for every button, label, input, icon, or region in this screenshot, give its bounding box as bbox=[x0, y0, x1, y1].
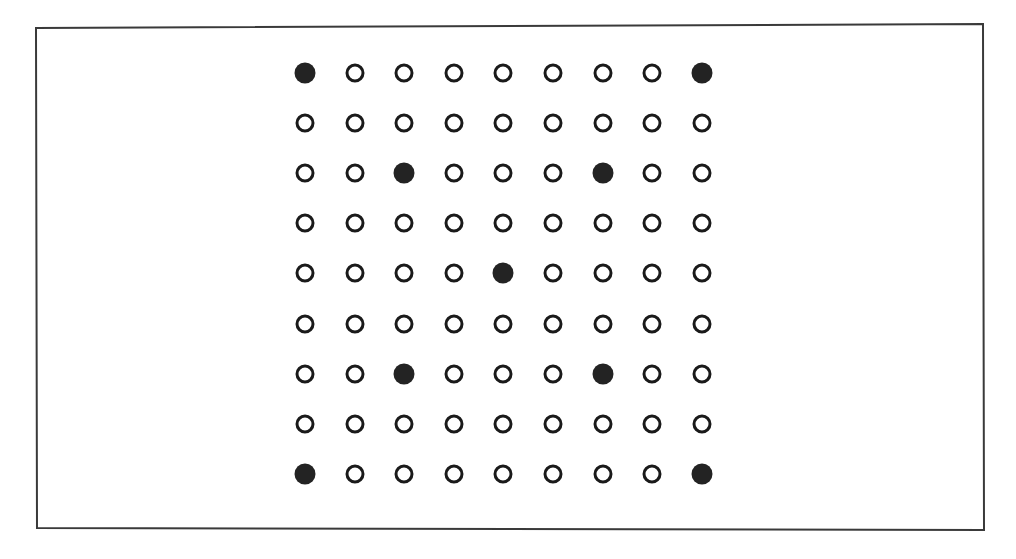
dot-hollow bbox=[444, 264, 463, 283]
dot-hollow bbox=[643, 214, 662, 233]
dot-hollow bbox=[643, 364, 662, 383]
dot-filled bbox=[493, 263, 514, 284]
dot-hollow bbox=[296, 114, 315, 133]
dot-hollow bbox=[296, 214, 315, 233]
dot-hollow bbox=[643, 314, 662, 333]
dot-hollow bbox=[494, 214, 513, 233]
dot-hollow bbox=[544, 64, 563, 83]
dot-hollow bbox=[593, 464, 612, 483]
dot-hollow bbox=[544, 414, 563, 433]
dot-hollow bbox=[494, 164, 513, 183]
dot-hollow bbox=[494, 364, 513, 383]
dot-hollow bbox=[692, 314, 711, 333]
dot-hollow bbox=[643, 264, 662, 283]
dot-hollow bbox=[692, 114, 711, 133]
dot-hollow bbox=[544, 164, 563, 183]
dot-hollow bbox=[345, 264, 364, 283]
dot-hollow bbox=[643, 114, 662, 133]
dot-hollow bbox=[494, 414, 513, 433]
dot-hollow bbox=[593, 214, 612, 233]
dot-hollow bbox=[692, 414, 711, 433]
dot-hollow bbox=[544, 214, 563, 233]
dot-hollow bbox=[345, 364, 364, 383]
dot-filled bbox=[295, 463, 316, 484]
dot-hollow bbox=[444, 214, 463, 233]
dot-filled bbox=[394, 163, 415, 184]
dot-hollow bbox=[692, 264, 711, 283]
dot-hollow bbox=[444, 164, 463, 183]
dot-filled bbox=[592, 363, 613, 384]
dot-filled bbox=[295, 63, 316, 84]
dot-hollow bbox=[395, 464, 414, 483]
dot-hollow bbox=[345, 414, 364, 433]
dot-hollow bbox=[494, 314, 513, 333]
dot-hollow bbox=[395, 264, 414, 283]
dot-hollow bbox=[395, 64, 414, 83]
dot-hollow bbox=[494, 464, 513, 483]
dot-filled bbox=[691, 63, 712, 84]
dot-hollow bbox=[444, 114, 463, 133]
dot-hollow bbox=[296, 414, 315, 433]
dot-hollow bbox=[643, 414, 662, 433]
dot-hollow bbox=[544, 264, 563, 283]
dot-hollow bbox=[395, 114, 414, 133]
dot-hollow bbox=[494, 64, 513, 83]
dot-hollow bbox=[593, 264, 612, 283]
dot-hollow bbox=[643, 64, 662, 83]
dot-hollow bbox=[296, 164, 315, 183]
dot-hollow bbox=[345, 214, 364, 233]
dot-grid bbox=[0, 0, 1016, 559]
dot-hollow bbox=[692, 364, 711, 383]
dot-hollow bbox=[296, 364, 315, 383]
dot-hollow bbox=[544, 464, 563, 483]
dot-hollow bbox=[593, 114, 612, 133]
dot-hollow bbox=[643, 164, 662, 183]
dot-hollow bbox=[296, 314, 315, 333]
dot-hollow bbox=[692, 164, 711, 183]
dot-hollow bbox=[395, 314, 414, 333]
dot-hollow bbox=[395, 414, 414, 433]
dot-hollow bbox=[593, 64, 612, 83]
dot-hollow bbox=[444, 464, 463, 483]
dot-hollow bbox=[444, 414, 463, 433]
dot-hollow bbox=[444, 64, 463, 83]
dot-hollow bbox=[643, 464, 662, 483]
dot-hollow bbox=[345, 314, 364, 333]
dot-hollow bbox=[593, 414, 612, 433]
dot-hollow bbox=[444, 314, 463, 333]
dot-hollow bbox=[345, 64, 364, 83]
dot-hollow bbox=[345, 114, 364, 133]
dot-hollow bbox=[345, 464, 364, 483]
dot-hollow bbox=[296, 264, 315, 283]
dot-hollow bbox=[395, 214, 414, 233]
dot-hollow bbox=[444, 364, 463, 383]
dot-hollow bbox=[593, 314, 612, 333]
dot-hollow bbox=[544, 364, 563, 383]
dot-hollow bbox=[544, 314, 563, 333]
dot-hollow bbox=[494, 114, 513, 133]
dot-hollow bbox=[544, 114, 563, 133]
dot-hollow bbox=[692, 214, 711, 233]
dot-filled bbox=[691, 463, 712, 484]
dot-filled bbox=[592, 163, 613, 184]
diagram-page bbox=[0, 0, 1016, 559]
dot-filled bbox=[394, 363, 415, 384]
dot-hollow bbox=[345, 164, 364, 183]
